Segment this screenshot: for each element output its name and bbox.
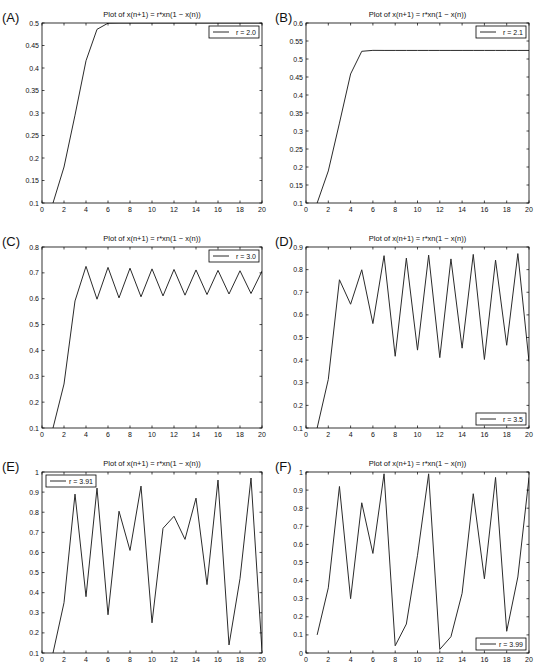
x-tick-label: 14 (458, 206, 466, 213)
y-tick-label: 0.1 (29, 200, 39, 207)
x-tick-label: 18 (503, 656, 511, 663)
chart-title: Plot of x(n+1) = r*xn(1 − x(n)) (103, 10, 201, 19)
x-tick-label: 6 (106, 431, 110, 438)
y-tick-label: 0.9 (293, 487, 303, 494)
y-tick-label: 0.5 (29, 321, 39, 328)
data-line (317, 474, 529, 650)
x-tick-label: 0 (304, 206, 308, 213)
y-tick-label: 0.6 (29, 549, 39, 556)
x-tick-label: 12 (170, 656, 178, 663)
x-tick-label: 0 (304, 656, 308, 663)
x-tick-label: 2 (326, 656, 330, 663)
y-tick-label: 0.15 (25, 177, 39, 184)
y-tick-label: 0 (299, 650, 303, 657)
x-tick-label: 4 (349, 431, 353, 438)
y-tick-label: 0.2 (29, 399, 39, 406)
data-line (53, 23, 262, 203)
y-tick-label: 0.4 (293, 577, 303, 584)
y-tick-label: 0.3 (29, 110, 39, 117)
y-tick-label: 0.6 (293, 541, 303, 548)
x-tick-label: 2 (326, 206, 330, 213)
x-tick-label: 2 (62, 206, 66, 213)
y-tick-label: 0.1 (29, 650, 39, 657)
panel-label: (B) (275, 10, 292, 25)
x-tick-label: 20 (525, 206, 533, 213)
y-tick-label: 0.1 (293, 200, 303, 207)
y-tick-label: 0.25 (289, 146, 303, 153)
y-tick-label: 1 (299, 469, 303, 476)
panel-label: (C) (2, 234, 20, 249)
y-tick-label: 0.6 (293, 20, 303, 27)
x-tick-label: 12 (170, 431, 178, 438)
x-tick-label: 6 (371, 656, 375, 663)
x-tick-label: 6 (106, 656, 110, 663)
x-tick-label: 20 (258, 656, 266, 663)
panel-label: (A) (2, 10, 19, 25)
y-tick-label: 0.3 (29, 609, 39, 616)
x-tick-label: 20 (258, 206, 266, 213)
y-tick-label: 0.5 (29, 20, 39, 27)
chart-panel-a: (A)Plot of x(n+1) = r*xn(1 − x(n))024681… (2, 10, 266, 213)
y-tick-label: 0.15 (289, 182, 303, 189)
y-tick-label: 0.2 (293, 402, 303, 409)
x-tick-label: 14 (192, 431, 200, 438)
x-tick-label: 4 (84, 206, 88, 213)
x-tick-label: 10 (414, 206, 422, 213)
x-tick-label: 0 (40, 206, 44, 213)
chart-title: Plot of x(n+1) = r*xn(1 − x(n)) (103, 459, 201, 468)
x-tick-label: 18 (236, 431, 244, 438)
x-tick-label: 14 (192, 656, 200, 663)
chart-panel-c: (C)Plot of x(n+1) = r*xn(1 − x(n))024681… (2, 234, 266, 438)
y-tick-label: 0.6 (293, 311, 303, 318)
x-tick-label: 8 (393, 431, 397, 438)
y-tick-label: 0.2 (293, 613, 303, 620)
y-tick-label: 0.6 (29, 295, 39, 302)
data-line (317, 254, 529, 428)
y-tick-label: 0.4 (29, 65, 39, 72)
x-tick-label: 10 (414, 431, 422, 438)
y-tick-label: 0.1 (29, 425, 39, 432)
y-tick-label: 0.8 (29, 244, 39, 251)
y-tick-label: 0.2 (29, 629, 39, 636)
y-tick-label: 0.7 (29, 529, 39, 536)
x-tick-label: 12 (436, 206, 444, 213)
figure: (A)Plot of x(n+1) = r*xn(1 − x(n))024681… (0, 0, 547, 669)
x-tick-label: 4 (84, 656, 88, 663)
x-tick-label: 20 (525, 431, 533, 438)
legend: r = 2.1 (476, 26, 526, 38)
x-tick-label: 4 (349, 206, 353, 213)
x-tick-label: 8 (128, 206, 132, 213)
y-tick-label: 0.3 (293, 128, 303, 135)
y-tick-label: 0.7 (293, 289, 303, 296)
x-tick-label: 8 (128, 431, 132, 438)
x-tick-label: 2 (62, 656, 66, 663)
y-tick-label: 0.8 (293, 266, 303, 273)
y-tick-label: 0.4 (29, 589, 39, 596)
x-tick-label: 16 (481, 656, 489, 663)
legend-label: r = 3.5 (503, 416, 523, 423)
axes-box (42, 472, 262, 653)
data-line (53, 478, 262, 653)
y-tick-label: 0.25 (25, 132, 39, 139)
y-tick-label: 0.7 (293, 523, 303, 530)
x-tick-label: 20 (258, 431, 266, 438)
panel-label: (D) (275, 234, 293, 249)
y-tick-label: 1 (35, 469, 39, 476)
axes-box (42, 247, 262, 428)
x-tick-label: 16 (214, 206, 222, 213)
y-tick-label: 0.45 (25, 42, 39, 49)
legend: r = 2.0 (209, 26, 259, 38)
legend: r = 3.5 (476, 413, 526, 425)
y-tick-label: 0.4 (293, 92, 303, 99)
axes-box (306, 472, 529, 653)
x-tick-label: 6 (371, 431, 375, 438)
y-tick-label: 0.35 (289, 110, 303, 117)
y-tick-label: 0.45 (289, 74, 303, 81)
x-tick-label: 10 (148, 206, 156, 213)
chart-title: Plot of x(n+1) = r*xn(1 − x(n)) (369, 234, 467, 243)
y-tick-label: 0.7 (29, 269, 39, 276)
chart-title: Plot of x(n+1) = r*xn(1 − x(n)) (369, 459, 467, 468)
legend: r = 3.99 (476, 638, 526, 650)
legend: r = 3.0 (209, 250, 259, 262)
y-tick-label: 0.9 (29, 489, 39, 496)
